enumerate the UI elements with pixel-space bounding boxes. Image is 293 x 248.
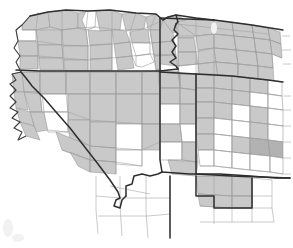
county-blank: [198, 150, 214, 166]
county-shaded: [90, 58, 112, 71]
county-shaded: [196, 88, 214, 102]
county-blank: [116, 124, 142, 150]
county-dark: [268, 140, 283, 158]
county-blank: [214, 150, 232, 168]
county-shaded: [63, 46, 88, 60]
county-blank: [160, 104, 180, 124]
county-shaded: [178, 38, 196, 52]
county-blank: [214, 118, 232, 136]
county-shaded: [20, 56, 38, 69]
county-shaded: [142, 94, 160, 124]
county-shaded: [130, 29, 150, 43]
county-shaded: [232, 136, 250, 154]
county-shaded: [232, 176, 252, 196]
county-shaded: [88, 30, 112, 45]
county-shaded: [236, 50, 258, 66]
county-blank: [270, 156, 283, 174]
county-shaded: [180, 88, 196, 104]
county-shaded: [196, 102, 214, 118]
county-shaded: [90, 72, 116, 94]
county-shaded: [234, 36, 256, 52]
county-blank: [42, 94, 68, 112]
county-shaded: [116, 56, 134, 70]
county-shaded: [48, 10, 78, 30]
county-blank: [268, 124, 283, 142]
county-shaded: [196, 34, 214, 50]
county-shaded: [36, 27, 62, 45]
county-blank: [232, 152, 250, 170]
county-blank: [268, 108, 283, 126]
county-shaded: [116, 94, 142, 124]
county-shaded: [214, 88, 232, 104]
county-shaded: [232, 90, 250, 106]
county-blank: [268, 80, 282, 96]
county-shaded: [62, 28, 88, 46]
county-dark: [250, 138, 270, 156]
county-shaded: [196, 134, 214, 150]
county-blank: [214, 134, 232, 152]
county-blank: [250, 92, 268, 108]
county-shaded: [116, 72, 142, 94]
county-blank: [268, 94, 283, 110]
county-shaded: [66, 72, 90, 94]
county-shaded: [180, 74, 196, 90]
county-shaded: [198, 48, 216, 64]
county-shaded: [40, 72, 66, 94]
county-shaded: [39, 58, 64, 70]
county-blank: [250, 154, 270, 172]
county-blank: [116, 150, 142, 166]
county-blank: [232, 104, 250, 122]
county-shaded: [180, 104, 196, 124]
county-shaded: [232, 196, 252, 208]
county-shaded: [196, 74, 214, 88]
county-shaded: [160, 124, 182, 142]
county-shaded: [90, 122, 116, 148]
map-canvas: [0, 0, 293, 248]
county-shaded: [178, 52, 198, 66]
county-shaded: [196, 118, 214, 134]
county-blank: [232, 120, 250, 138]
county-shaded: [160, 88, 180, 104]
county-shaded: [256, 52, 273, 68]
county-shaded: [64, 60, 88, 71]
county-shaded: [90, 44, 112, 59]
county-shaded: [114, 42, 132, 58]
map-figure: [0, 0, 293, 248]
county-blank: [160, 142, 182, 160]
county-shaded: [250, 106, 268, 124]
county-shaded: [214, 34, 236, 50]
county-shaded: [214, 102, 232, 120]
county-shaded: [214, 48, 238, 64]
county-shaded: [142, 71, 160, 94]
county-shaded: [90, 94, 116, 122]
county-shaded: [122, 13, 146, 31]
county-blank: [180, 124, 196, 142]
county-shaded: [18, 41, 38, 56]
county-shaded: [250, 122, 268, 140]
county-shaded: [254, 38, 272, 54]
